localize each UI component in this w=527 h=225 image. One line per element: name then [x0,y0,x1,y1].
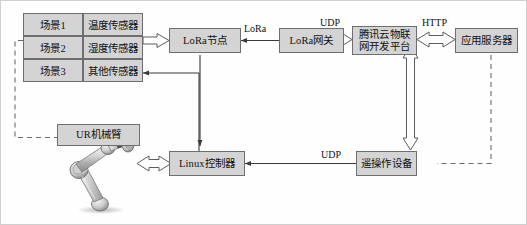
edge-label-udp-top: UDP [320,17,340,28]
dashed-line-appserver-to-teleop [437,55,491,164]
ur-arm-label: UR机械臂 [76,129,121,141]
arrow-cloud-appserver-http [417,32,455,47]
scene-cell-1: 场景1 [23,13,83,36]
sensor-label-2: 湿度传感器 [88,40,138,55]
node-cloud-platform: 腾讯云物联 网开发平台 [352,26,417,55]
arrow-sensor-to-lora-node [143,34,169,48]
http-label-text: HTTP [422,17,447,28]
node-linux-controller: Linux控制器 [169,151,245,176]
cloud-platform-label-line1: 腾讯云物联 [359,29,410,41]
udp-bottom-label-text: UDP [321,149,341,160]
node-app-server: 应用服务器 [455,28,518,53]
scene-cell-2: 场景2 [23,36,83,59]
scene-label-2: 场景2 [40,40,65,55]
edge-label-http: HTTP [422,17,447,28]
sensor-cell-1: 温度传感器 [83,13,143,36]
cloud-platform-label-line2: 网开发平台 [359,41,410,53]
scene-label-3: 场景3 [40,63,65,78]
edge-label-udp-bottom: UDP [321,149,341,160]
udp-top-label-text: UDP [320,17,340,28]
scene-cell-3: 场景3 [23,59,83,82]
diagram-canvas: 场景1 温度传感器 场景2 湿度传感器 场景3 其他传感器 LoRa节点 LoR… [0,0,527,225]
app-server-label: 应用服务器 [461,35,512,47]
sensor-cell-3: 其他传感器 [83,59,143,82]
node-ur-arm: UR机械臂 [57,124,140,146]
node-lora-gateway: LoRa网关 [279,28,344,53]
sensor-label-3: 其他传感器 [88,63,138,78]
edge-label-lora: LoRa [244,23,266,34]
lora-gateway-label: LoRa网关 [290,35,334,47]
lora-label-text: LoRa [244,23,266,34]
node-teleop-device: 遥操作设备 [356,151,417,176]
line-controller-to-sensor3 [143,73,199,151]
sensor-cell-2: 湿度传感器 [83,36,143,59]
linux-controller-label: Linux控制器 [179,158,235,170]
teleop-device-label: 遥操作设备 [361,158,412,170]
node-lora-node: LoRa节点 [169,28,241,53]
lora-node-label: LoRa节点 [183,35,227,47]
scene-label-1: 场景1 [40,17,65,32]
sensor-label-1: 温度传感器 [88,17,138,32]
arrow-teleop-cloud-vertical [403,46,418,150]
